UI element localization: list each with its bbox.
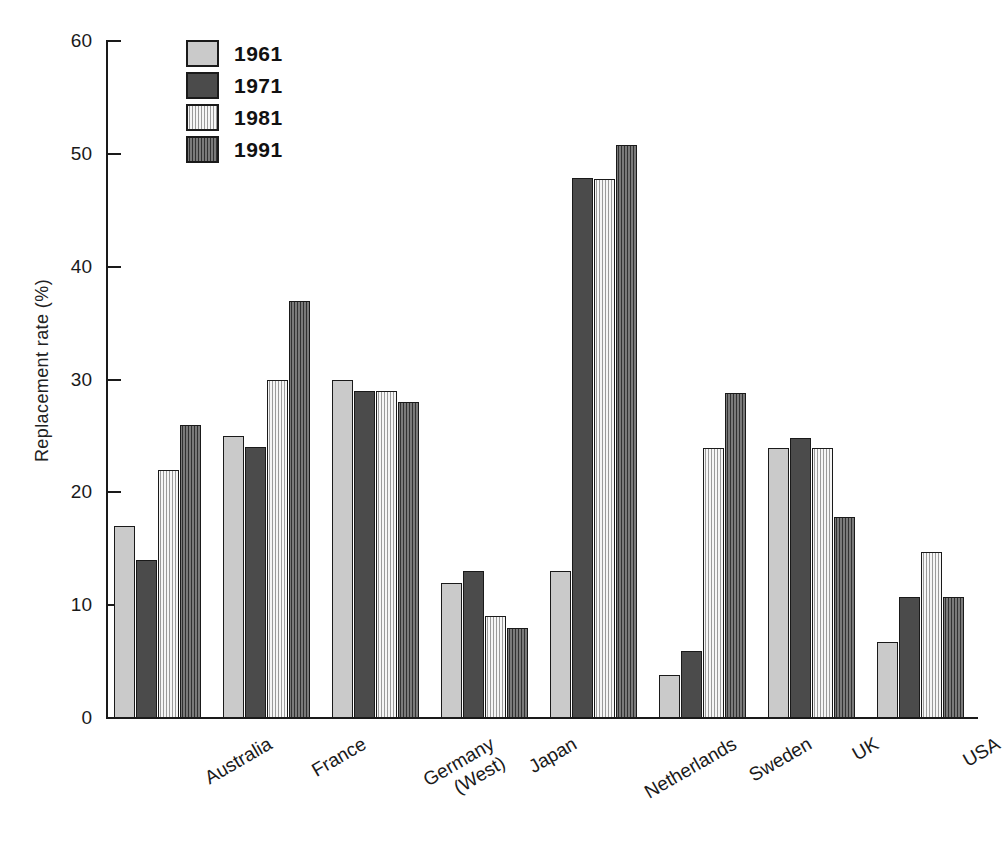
x-axis-label: Australia — [200, 733, 275, 789]
bar-group — [441, 41, 529, 718]
legend-item[interactable]: 1961 — [186, 38, 283, 69]
legend-swatch — [186, 40, 219, 67]
bar[interactable] — [877, 642, 899, 718]
legend-item[interactable]: 1981 — [186, 102, 283, 133]
bar[interactable] — [594, 179, 616, 718]
x-axis-label: Netherlands — [640, 733, 740, 803]
x-axis-label: Japan — [524, 733, 580, 778]
bar[interactable] — [768, 448, 790, 718]
bar[interactable] — [703, 448, 725, 718]
x-axis-label-line: Netherlands — [640, 733, 739, 802]
bar[interactable] — [398, 402, 420, 718]
bar[interactable] — [485, 616, 507, 718]
x-axis-label: Sweden — [745, 733, 815, 786]
x-axis-labels: AustraliaFranceGermany(West)JapanNetherl… — [106, 719, 978, 847]
y-tick-label: 20 — [48, 481, 92, 503]
legend-label: 1961 — [234, 42, 283, 66]
x-axis-label-line: Australia — [200, 733, 275, 788]
y-tick-label: 40 — [48, 256, 92, 278]
x-axis-label-line: France — [307, 733, 369, 781]
bar[interactable] — [616, 145, 638, 718]
x-axis-label-line: USA — [959, 733, 1003, 771]
legend-swatch — [186, 104, 219, 131]
legend-label: 1971 — [234, 74, 283, 98]
bar[interactable] — [114, 526, 136, 718]
bar-group — [768, 41, 856, 718]
bar[interactable] — [136, 560, 158, 718]
y-tick-label: 30 — [48, 369, 92, 391]
x-axis-label: France — [307, 733, 369, 782]
y-tick-label: 10 — [48, 594, 92, 616]
legend-swatch — [186, 136, 219, 163]
bar[interactable] — [790, 438, 812, 718]
x-axis-label-line: Japan — [524, 733, 579, 777]
legend: 1961197119811991 — [186, 38, 283, 166]
bar[interactable] — [180, 425, 202, 718]
x-axis-label-line: UK — [848, 733, 881, 764]
y-tick-label: 60 — [48, 30, 92, 52]
bar[interactable] — [681, 651, 703, 718]
bar-group — [550, 41, 638, 718]
bar-group — [877, 41, 965, 718]
bar[interactable] — [441, 583, 463, 718]
bar[interactable] — [223, 436, 245, 718]
bar-group — [332, 41, 420, 718]
bar[interactable] — [572, 178, 594, 718]
bar[interactable] — [921, 552, 943, 718]
legend-item[interactable]: 1971 — [186, 70, 283, 101]
x-axis-label: UK — [848, 733, 882, 765]
legend-item[interactable]: 1991 — [186, 134, 283, 165]
bar[interactable] — [659, 675, 681, 718]
x-axis-label: Germany(West) — [419, 733, 509, 810]
bar[interactable] — [289, 301, 311, 718]
legend-label: 1981 — [234, 106, 283, 130]
bar-group — [659, 41, 747, 718]
bar[interactable] — [507, 628, 529, 718]
bar[interactable] — [354, 391, 376, 718]
bar[interactable] — [812, 448, 834, 718]
bar[interactable] — [725, 393, 747, 718]
bar[interactable] — [834, 517, 856, 718]
y-tick-label: 50 — [48, 143, 92, 165]
bar[interactable] — [376, 391, 398, 718]
bar[interactable] — [158, 470, 180, 718]
x-axis-label-line: Sweden — [745, 733, 815, 786]
bar[interactable] — [267, 380, 289, 719]
bar[interactable] — [899, 597, 921, 718]
y-tick-label: 0 — [48, 707, 92, 729]
legend-swatch — [186, 72, 219, 99]
bar[interactable] — [943, 597, 965, 718]
bar[interactable] — [245, 447, 267, 718]
bar[interactable] — [332, 380, 354, 719]
legend-label: 1991 — [234, 138, 283, 162]
bar[interactable] — [463, 571, 485, 718]
bar[interactable] — [550, 571, 572, 718]
x-axis-label: USA — [959, 733, 1004, 772]
